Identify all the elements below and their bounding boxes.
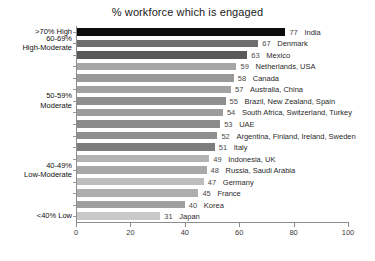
bar-row: 49Indonesia, UK xyxy=(76,155,348,163)
bar-value-label: 77 xyxy=(289,27,297,36)
bar xyxy=(76,178,204,186)
x-axis-tick-label: 0 xyxy=(74,228,78,237)
bar-value-label: 31 xyxy=(164,212,172,221)
chart-container: % workforce which is engaged 77India67De… xyxy=(0,0,375,261)
x-axis-tick xyxy=(239,223,240,227)
y-axis-line xyxy=(76,26,77,223)
x-axis-tick xyxy=(294,223,295,227)
bar xyxy=(76,132,217,140)
bar-value-label: 40 xyxy=(189,200,197,209)
bar xyxy=(76,189,198,197)
bar-row: 40Korea xyxy=(76,201,348,209)
bar-row: 52Argentina, Finland, Ireland, Sweden xyxy=(76,132,348,140)
bar-category-label: Japan xyxy=(179,212,199,221)
bar-category-label: France xyxy=(217,189,240,198)
bar-category-label: Denmark xyxy=(277,39,307,48)
bar-row: 77India xyxy=(76,28,348,36)
bar-value-label: 53 xyxy=(224,120,232,129)
bar-row: 58Canada xyxy=(76,74,348,82)
bar-row: 57Australia, China xyxy=(76,86,348,94)
chart-title: % workforce which is engaged xyxy=(0,6,375,18)
x-axis-tick xyxy=(185,223,186,227)
y-axis-group-label-line: 40-49% xyxy=(0,161,72,171)
bar-category-label: Russia, Saudi Arabia xyxy=(226,166,296,175)
y-axis-group-label: <40% Low xyxy=(0,211,72,221)
bar-category-label: Brazil, New Zealand, Spain xyxy=(245,96,335,105)
bar-category-label: Australia, China xyxy=(250,85,303,94)
y-axis-group-label-line: 50-59% xyxy=(0,91,72,101)
bar-value-label: 59 xyxy=(240,62,248,71)
y-axis-group-label: 40-49%Low-Moderate xyxy=(0,161,72,180)
y-axis-group-label: 50-59%Moderate xyxy=(0,91,72,110)
bar-value-label: 55 xyxy=(230,96,238,105)
bar-category-label: Indonesia, UK xyxy=(228,154,275,163)
bar-category-label: South Africa, Switzerland, Turkey xyxy=(242,108,352,117)
bar xyxy=(76,51,247,59)
bar xyxy=(76,74,234,82)
bar-row: 55Brazil, New Zealand, Spain xyxy=(76,97,348,105)
bar-row: 31Japan xyxy=(76,212,348,220)
bar-row: 63Mexico xyxy=(76,51,348,59)
bar xyxy=(76,143,215,151)
plot-area: 77India67Denmark63Mexico59Netherlands, U… xyxy=(76,26,348,222)
bar-category-label: Germany xyxy=(223,177,254,186)
bar-value-label: 58 xyxy=(238,73,246,82)
bar-value-label: 49 xyxy=(213,154,221,163)
bar-value-label: 67 xyxy=(262,39,270,48)
bar xyxy=(76,212,160,220)
y-axis-group-label-line: Low-Moderate xyxy=(0,170,72,180)
y-axis-group-label-line: <40% Low xyxy=(0,211,72,221)
bar xyxy=(76,63,236,71)
x-axis-tick-label: 40 xyxy=(181,228,189,237)
bar-value-label: 47 xyxy=(208,177,216,186)
bar-value-label: 52 xyxy=(221,131,229,140)
y-axis-group-label-line: Moderate xyxy=(0,101,72,111)
bar-value-label: 51 xyxy=(219,143,227,152)
x-axis-tick-label: 80 xyxy=(289,228,297,237)
bar-row: 53UAE xyxy=(76,120,348,128)
x-axis-tick-label: 20 xyxy=(126,228,134,237)
bar-category-label: Italy xyxy=(234,143,248,152)
y-axis-group-label-line: 60-69% xyxy=(0,34,72,44)
bar-value-label: 45 xyxy=(202,189,210,198)
bar-category-label: Mexico xyxy=(266,50,290,59)
bar xyxy=(76,120,220,128)
bar-row: 45France xyxy=(76,189,348,197)
bar-row: 59Netherlands, USA xyxy=(76,63,348,71)
bar-row: 48Russia, Saudi Arabia xyxy=(76,166,348,174)
bar xyxy=(76,40,258,48)
bar xyxy=(76,97,226,105)
x-axis-tick-label: 100 xyxy=(342,228,355,237)
bar xyxy=(76,166,207,174)
bar-category-label: Argentina, Finland, Ireland, Sweden xyxy=(236,131,355,140)
bar xyxy=(76,155,209,163)
x-axis-tick xyxy=(348,223,349,227)
bar xyxy=(76,201,185,209)
bar-category-label: India xyxy=(304,27,320,36)
bar xyxy=(76,86,231,94)
bar xyxy=(76,28,285,36)
bar-category-label: Canada xyxy=(253,73,279,82)
y-axis-group-label-line: High-Moderate xyxy=(0,43,72,53)
bar xyxy=(76,109,223,117)
bar-row: 67Denmark xyxy=(76,40,348,48)
bar-value-label: 63 xyxy=(251,50,259,59)
x-axis-tick xyxy=(76,223,77,227)
x-axis-tick-label: 60 xyxy=(235,228,243,237)
x-axis-tick xyxy=(130,223,131,227)
bar-category-label: Netherlands, USA xyxy=(255,62,315,71)
x-axis-ticks: 020406080100 xyxy=(76,223,349,243)
bar-row: 54South Africa, Switzerland, Turkey xyxy=(76,109,348,117)
bar-row: 47Germany xyxy=(76,178,348,186)
bar-category-label: Korea xyxy=(204,200,224,209)
bar-row: 51Italy xyxy=(76,143,348,151)
bar-value-label: 48 xyxy=(211,166,219,175)
bar-value-label: 54 xyxy=(227,108,235,117)
bar-category-label: UAE xyxy=(239,120,254,129)
y-axis-group-label: 60-69%High-Moderate xyxy=(0,34,72,53)
bar-value-label: 57 xyxy=(235,85,243,94)
